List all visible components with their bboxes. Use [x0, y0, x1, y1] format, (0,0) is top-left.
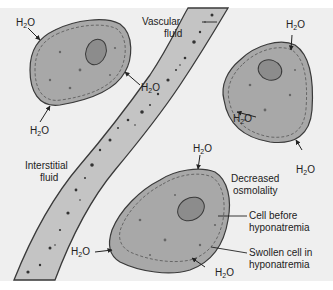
label-cell-before-2: hyponatremia [249, 222, 310, 233]
label-decreased-osmolality-2: osmolality [233, 185, 277, 196]
hyponatremia-diagram: H2O H2O H2O H2O H2O H2O H2O H2O H2O Vasc… [0, 0, 333, 290]
label-vascular-fluid: Vascular [142, 16, 181, 27]
label-swollen-cell: Swollen cell in [249, 247, 312, 258]
label-swollen-cell-2: hyponatremia [249, 259, 310, 270]
label-vascular-fluid-2: fluid [164, 28, 182, 39]
label-interstitial-fluid: Interstitial [25, 160, 68, 171]
label-cell-before: Cell before [249, 210, 298, 221]
label-decreased-osmolality: Decreased [231, 173, 279, 184]
label-interstitial-fluid-2: fluid [40, 172, 58, 183]
